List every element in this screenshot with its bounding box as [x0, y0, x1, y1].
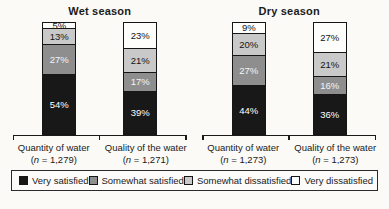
panel-title-dry-season: Dry season [259, 5, 320, 18]
segment-value-label: 13% [50, 32, 69, 41]
plot-area-wet-season: 5%13%27%54%23%21%17%39% [42, 22, 157, 135]
legend-swatch-very-satisfied [19, 176, 28, 185]
panel-dry-season: Dry season 9%20%27%44%27%21%16%36% Quant… [195, 5, 385, 166]
legend-label: Somewhat dissatisfied [197, 175, 292, 186]
panel-title-wet-season: Wet season [68, 5, 131, 18]
segment-value-label: 27% [239, 66, 258, 75]
category-label-quality-of-the-water: Quality of the water(n = 1,271) [100, 142, 192, 166]
stacked-bar-figure: Wet season 5%13%27%54%23%21%17%39% Quant… [0, 0, 389, 191]
category-label-quality-of-the-water: Quality of the water(n = 1,273) [289, 142, 381, 166]
category-label-quantity-of-water: Quantity of water(n = 1,279) [8, 142, 100, 166]
segment-value-label: 23% [131, 31, 150, 40]
segment-somewhat-dissatisfied: 20% [233, 33, 265, 56]
stacked-bar-quality-of-the-water: 27%21%16%36% [313, 22, 347, 135]
legend: Very satisfiedSomewhat satisfiedSomewhat… [11, 170, 378, 191]
legend-label: Very satisfied [32, 175, 89, 186]
axis-tick [202, 136, 204, 140]
segment-somewhat-satisfied: 17% [124, 72, 156, 91]
stacked-bar-quality-of-the-water: 23%21%17%39% [123, 22, 157, 135]
segment-value-label: 27% [50, 55, 69, 64]
x-axis-wet-season [13, 135, 187, 140]
axis-tick [288, 136, 290, 140]
segment-value-label: 17% [131, 77, 150, 86]
stacked-bar-quantity-of-water: 9%20%27%44% [232, 22, 266, 135]
axis-tick [185, 136, 187, 140]
legend-label: Very dissatisfied [304, 175, 373, 186]
category-labels-dry-season: Quantity of water(n = 1,273)Quality of t… [197, 142, 381, 166]
segment-value-label: 16% [320, 81, 339, 90]
segment-somewhat-satisfied: 27% [233, 55, 265, 85]
segment-very-satisfied: 39% [124, 91, 156, 134]
x-axis-dry-season [202, 135, 376, 140]
segment-value-label: 39% [131, 108, 150, 117]
plot-area-dry-season: 9%20%27%44%27%21%16%36% [232, 22, 347, 135]
legend-item-very-dissatisfied: Very dissatisfied [291, 175, 373, 186]
segment-somewhat-dissatisfied: 21% [314, 52, 346, 76]
segment-very-satisfied: 54% [43, 74, 75, 134]
segment-very-dissatisfied: 27% [314, 23, 346, 52]
legend-item-somewhat-satisfied: Somewhat satisfied [89, 175, 184, 186]
segment-value-label: 21% [131, 56, 150, 65]
segment-value-label: 36% [320, 110, 339, 119]
segment-value-label: 20% [239, 40, 258, 49]
segment-very-dissatisfied: 9% [233, 23, 265, 33]
axis-tick [99, 136, 101, 140]
segment-somewhat-satisfied: 16% [314, 76, 346, 94]
segment-value-label: 9% [242, 23, 256, 32]
segment-very-dissatisfied: 23% [124, 23, 156, 48]
axis-tick [375, 136, 377, 140]
legend-swatch-very-dissatisfied [291, 176, 300, 185]
panel-wet-season: Wet season 5%13%27%54%23%21%17%39% Quant… [5, 5, 195, 166]
category-label-quantity-of-water: Quantity of water(n = 1,273) [197, 142, 289, 166]
category-labels-wet-season: Quantity of water(n = 1,279)Quality of t… [8, 142, 192, 166]
segment-somewhat-dissatisfied: 21% [124, 48, 156, 72]
legend-label: Somewhat satisfied [102, 175, 184, 186]
legend-swatch-somewhat-satisfied [89, 176, 98, 185]
legend-item-very-satisfied: Very satisfied [19, 175, 89, 186]
segment-value-label: 21% [320, 60, 339, 69]
legend-item-somewhat-dissatisfied: Somewhat dissatisfied [184, 175, 292, 186]
panels-row: Wet season 5%13%27%54%23%21%17%39% Quant… [0, 5, 389, 166]
segment-very-satisfied: 44% [233, 85, 265, 134]
segment-value-label: 27% [320, 33, 339, 42]
segment-somewhat-dissatisfied: 13% [43, 28, 75, 43]
segment-value-label: 44% [239, 106, 258, 115]
segment-very-satisfied: 36% [314, 94, 346, 134]
legend-swatch-somewhat-dissatisfied [184, 176, 193, 185]
stacked-bar-quantity-of-water: 5%13%27%54% [42, 22, 76, 135]
segment-value-label: 54% [50, 100, 69, 109]
axis-tick [13, 136, 15, 140]
segment-somewhat-satisfied: 27% [43, 44, 75, 74]
